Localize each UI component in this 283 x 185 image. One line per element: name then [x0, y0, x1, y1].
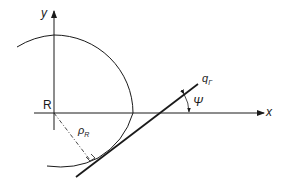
y-axis-label: y	[41, 7, 47, 19]
x-axis-label: x	[266, 106, 272, 118]
diagram-canvas: y x R ρR qΓ Ψ	[0, 0, 283, 185]
radius-label: ρR	[78, 125, 89, 136]
tangent-line	[76, 84, 198, 177]
angle-arc	[184, 94, 189, 112]
origin-label: R	[43, 99, 52, 111]
tangent-label: qΓ	[202, 73, 212, 84]
diagram-graphics	[0, 0, 283, 185]
tangent-subscript: Γ	[208, 79, 212, 86]
angle-label: Ψ	[193, 96, 203, 108]
radius-subscript: R	[84, 131, 89, 138]
